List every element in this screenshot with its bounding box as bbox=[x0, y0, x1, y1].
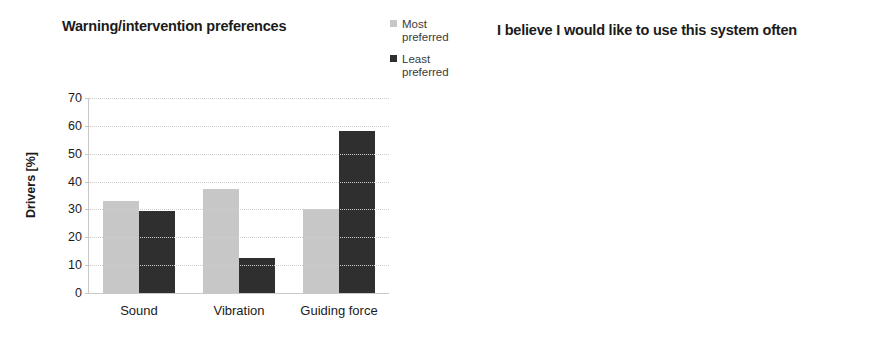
y-axis-title-left: Drivers [%] bbox=[24, 150, 38, 220]
legend-swatch-icon bbox=[390, 20, 397, 27]
y-axis-tick bbox=[85, 293, 89, 294]
chart-title-left: Warning/intervention preferences bbox=[62, 18, 286, 34]
chart-title-right: I believe I would like to use this syste… bbox=[497, 22, 797, 38]
x-axis-category-label: Guiding force bbox=[300, 303, 377, 318]
y-axis-tick bbox=[85, 126, 89, 127]
bar bbox=[239, 258, 275, 293]
y-axis-tick-label: 50 bbox=[68, 147, 82, 161]
gridline bbox=[89, 126, 389, 127]
gridline bbox=[89, 98, 389, 99]
legend-item: Most preferred bbox=[390, 18, 445, 44]
bar bbox=[203, 189, 239, 293]
y-axis-tick bbox=[85, 265, 89, 266]
y-axis-tick-label: 0 bbox=[75, 286, 82, 300]
bar-group: Sound bbox=[89, 98, 189, 293]
bar-group: Guiding force bbox=[289, 98, 389, 293]
y-axis-tick bbox=[85, 237, 89, 238]
y-axis-tick-label: 70 bbox=[68, 91, 82, 105]
figure-two-bar-charts: Warning/intervention preferences Drivers… bbox=[0, 0, 880, 340]
bar bbox=[339, 131, 375, 293]
y-axis-tick bbox=[85, 209, 89, 210]
bar bbox=[103, 201, 139, 293]
y-axis-tick-label: 10 bbox=[68, 258, 82, 272]
y-axis-tick-label: 40 bbox=[68, 175, 82, 189]
gridline bbox=[89, 209, 389, 210]
chart-panel-system-use: I believe I would like to use this syste… bbox=[440, 0, 880, 340]
y-axis-tick bbox=[85, 98, 89, 99]
y-axis-tick bbox=[85, 154, 89, 155]
x-axis-category-label: Sound bbox=[120, 303, 158, 318]
x-axis-category-label: Vibration bbox=[213, 303, 264, 318]
gridline bbox=[89, 265, 389, 266]
bar bbox=[303, 209, 339, 293]
y-axis-tick-label: 60 bbox=[68, 119, 82, 133]
bar-group: Vibration bbox=[189, 98, 289, 293]
gridline bbox=[89, 154, 389, 155]
plot-area-left: SoundVibrationGuiding force 010203040506… bbox=[88, 98, 389, 294]
legend-left: Most preferredLeast preferred bbox=[390, 18, 445, 88]
y-axis-tick-label: 30 bbox=[68, 202, 82, 216]
chart-panel-warning-preferences: Warning/intervention preferences Drivers… bbox=[0, 0, 440, 340]
gridline bbox=[89, 182, 389, 183]
bar-groups-left: SoundVibrationGuiding force bbox=[89, 98, 389, 293]
y-axis-tick-label: 20 bbox=[68, 230, 82, 244]
legend-item: Least preferred bbox=[390, 53, 445, 79]
legend-swatch-icon bbox=[390, 55, 397, 62]
gridline bbox=[89, 237, 389, 238]
y-axis-tick bbox=[85, 182, 89, 183]
bar bbox=[139, 211, 175, 293]
